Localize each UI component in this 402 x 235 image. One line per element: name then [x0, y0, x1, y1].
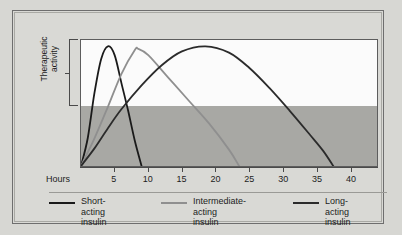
legend-item-label: Intermediate-acting insulin	[193, 196, 246, 228]
x-axis-tick-label: 5	[111, 174, 116, 184]
x-axis-tick	[283, 167, 284, 172]
curves-svg	[81, 40, 377, 166]
legend-item-label: Long-acting insulin	[325, 196, 351, 228]
legend-item-label: Short-acting insulin	[81, 196, 107, 228]
x-axis-tick-label: 10	[143, 174, 153, 184]
figure-canvas: Therapeutic activity 510152025303540 Hou…	[0, 0, 402, 235]
plot-area	[80, 39, 378, 167]
legend-swatch-intermediate-acting	[161, 202, 187, 204]
y-axis-bracket	[69, 39, 78, 106]
legend-swatch-long-acting	[293, 202, 319, 204]
x-axis-tick-label: 35	[312, 174, 322, 184]
legend-swatch-short-acting	[49, 202, 75, 204]
x-axis-line: 510152025303540	[80, 167, 378, 168]
x-axis-tick	[148, 167, 149, 172]
x-axis-origin-label: Hours	[46, 174, 70, 184]
y-axis-label-wrap: Therapeutic activity	[43, 51, 67, 95]
curve-long-acting-insulin	[81, 46, 333, 166]
legend-divider	[49, 192, 387, 193]
x-axis-tick	[317, 167, 318, 172]
x-axis-tick	[249, 167, 250, 172]
x-axis-tick	[114, 167, 115, 172]
x-axis-tick-label: 25	[244, 174, 254, 184]
x-axis-tick-label: 20	[210, 174, 220, 184]
x-axis-tick-label: 30	[278, 174, 288, 184]
curve-intermediate-acting-insulin	[81, 48, 239, 166]
x-axis-tick	[182, 167, 183, 172]
x-axis-tick	[215, 167, 216, 172]
x-axis-tick-label: 40	[346, 174, 356, 184]
legend: Short-acting insulinIntermediate-acting …	[35, 192, 387, 222]
x-axis-tick-label: 15	[177, 174, 187, 184]
figure-frame: Therapeutic activity 510152025303540 Hou…	[12, 10, 384, 224]
y-axis-label: Therapeutic activity	[39, 23, 59, 95]
x-axis-tick	[351, 167, 352, 172]
y-axis-bracket-tick	[65, 73, 70, 74]
